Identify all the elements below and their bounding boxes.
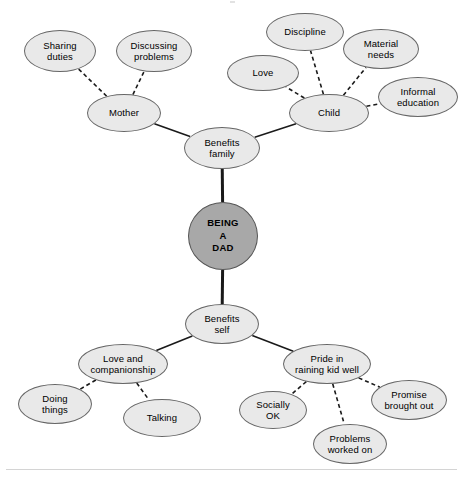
node-label-material-needs: Material needs bbox=[361, 38, 402, 61]
node-informal-education[interactable]: Informal education bbox=[378, 77, 458, 117]
edge-child-to-material-needs bbox=[343, 67, 366, 95]
node-benefits-family[interactable]: Benefits family bbox=[184, 127, 260, 169]
node-label-pride-in-raining-kid-well: Pride in raining kid well bbox=[292, 353, 362, 376]
edge-mother-to-discussing-problems bbox=[133, 71, 144, 94]
edge-benefits-self-to-pride-in-raining-kid-well bbox=[252, 336, 293, 352]
node-problems-worked-on[interactable]: Problems worked on bbox=[313, 424, 387, 464]
node-being-a-dad[interactable]: BEING A DAD bbox=[188, 202, 258, 270]
node-label-discipline: Discipline bbox=[281, 26, 329, 38]
node-label-doing-things: Doing things bbox=[39, 393, 71, 416]
node-material-needs[interactable]: Material needs bbox=[343, 29, 419, 69]
node-child[interactable]: Child bbox=[289, 94, 369, 132]
node-label-promise-brought-out: Promise brought out bbox=[381, 389, 436, 412]
edge-child-to-informal-education bbox=[366, 104, 380, 107]
node-doing-things[interactable]: Doing things bbox=[18, 384, 92, 424]
node-label-benefits-family: Benefits family bbox=[201, 137, 242, 160]
node-label-love: Love bbox=[249, 67, 276, 79]
node-benefits-self[interactable]: Benefits self bbox=[185, 304, 259, 344]
edge-love-and-companionship-to-doing-things bbox=[80, 380, 96, 389]
edge-child-to-love bbox=[286, 87, 304, 98]
node-label-informal-education: Informal education bbox=[394, 86, 442, 109]
mind-map-canvas: Benefits familyBenefits selfMotherChildS… bbox=[0, 0, 463, 477]
node-talking[interactable]: Talking bbox=[123, 399, 201, 437]
node-love-and-companionship[interactable]: Love and companionship bbox=[78, 344, 168, 384]
node-label-problems-worked-on: Problems worked on bbox=[325, 433, 376, 456]
edge-love-and-companionship-to-talking bbox=[137, 383, 149, 400]
node-socially-ok[interactable]: Socially OK bbox=[239, 391, 307, 429]
edge-pride-in-raining-kid-well-to-problems-worked-on bbox=[333, 384, 345, 424]
node-discussing-problems[interactable]: Discussing problems bbox=[116, 30, 192, 72]
node-promise-brought-out[interactable]: Promise brought out bbox=[371, 380, 447, 420]
edge-benefits-self-to-love-and-companionship bbox=[156, 336, 192, 351]
node-label-child: Child bbox=[315, 107, 343, 119]
node-discipline[interactable]: Discipline bbox=[266, 13, 344, 51]
edge-mother-to-sharing-duties bbox=[79, 69, 107, 96]
node-label-love-and-companionship: Love and companionship bbox=[87, 353, 158, 376]
node-pride-in-raining-kid-well[interactable]: Pride in raining kid well bbox=[283, 344, 371, 384]
top-artifact-mark bbox=[230, 1, 235, 3]
node-label-talking: Talking bbox=[144, 412, 180, 424]
edge-pride-in-raining-kid-well-to-promise-brought-out bbox=[359, 378, 380, 387]
node-label-socially-ok: Socially OK bbox=[253, 399, 293, 422]
node-label-mother: Mother bbox=[106, 107, 142, 119]
edge-child-to-discipline bbox=[311, 51, 324, 94]
edge-benefits-family-to-mother bbox=[154, 124, 190, 137]
node-label-sharing-duties: Sharing duties bbox=[40, 40, 79, 63]
node-label-benefits-self: Benefits self bbox=[201, 313, 242, 336]
node-label-discussing-problems: Discussing problems bbox=[128, 40, 181, 63]
node-sharing-duties[interactable]: Sharing duties bbox=[24, 30, 96, 72]
edge-benefits-family-to-child bbox=[255, 124, 296, 138]
node-label-being-a-dad: BEING A DAD bbox=[204, 217, 242, 255]
node-love[interactable]: Love bbox=[227, 55, 299, 91]
footer-divider bbox=[6, 469, 457, 470]
node-mother[interactable]: Mother bbox=[87, 94, 161, 132]
edge-pride-in-raining-kid-well-to-socially-ok bbox=[292, 382, 307, 394]
